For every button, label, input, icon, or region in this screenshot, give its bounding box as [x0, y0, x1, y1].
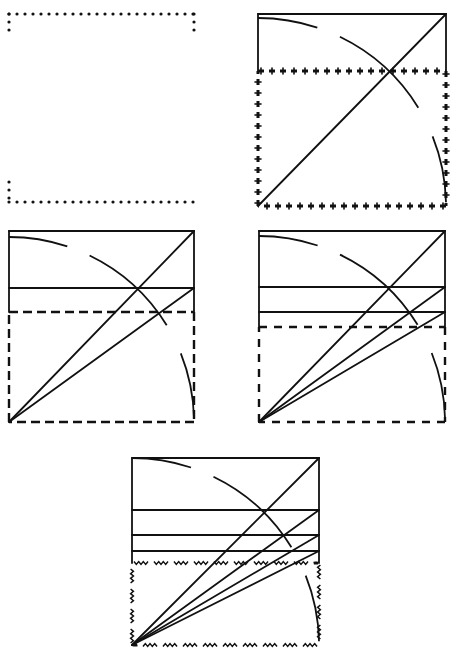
quarter-arc [258, 18, 317, 28]
diagonal-line [259, 312, 445, 422]
quarter-arc [9, 237, 67, 246]
wavy-edge [318, 565, 321, 639]
diagonal-line [9, 288, 194, 422]
quarter-arc [306, 576, 319, 642]
diagonal-line [259, 287, 445, 422]
quarter-arc [433, 136, 446, 202]
panel-5-root4-rectangle [131, 458, 321, 646]
quarter-arc [132, 458, 191, 468]
panel-4-root3-rectangle [259, 231, 445, 422]
panel-3-root2-rectangle [9, 231, 194, 422]
quarter-arc [90, 256, 167, 326]
diagram-canvas [0, 0, 455, 651]
diagonal-line [132, 510, 319, 645]
quarter-arc [259, 236, 318, 246]
root-rectangle-construction-diagram [0, 0, 455, 651]
wavy-edge [134, 562, 318, 565]
quarter-arc [214, 477, 292, 548]
panel-1-dotted-square [9, 14, 194, 202]
quarter-arc [432, 353, 445, 418]
quarter-arc [181, 353, 194, 418]
wavy-edge [133, 644, 317, 647]
wavy-edge [131, 569, 134, 643]
diagonal-line [9, 231, 194, 422]
panel-2-diagonal-square [255, 14, 449, 209]
